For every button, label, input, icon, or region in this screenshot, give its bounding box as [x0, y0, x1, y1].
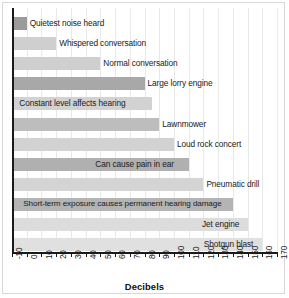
bar-row: Large lorry engine [12, 77, 277, 90]
x-tick [262, 252, 263, 257]
plot-area: Quietest noise heardWhispered conversati… [12, 8, 277, 251]
bar-row: Short-term exposure causes permanent hea… [12, 198, 277, 211]
x-tick [145, 252, 146, 257]
bar-row: Whispered conversation [12, 37, 277, 50]
bar-row: Pneumatic drill [12, 178, 277, 191]
bar-label: Quietest noise heard [30, 16, 105, 30]
x-tick [218, 252, 219, 257]
bar [12, 37, 56, 50]
x-tick-label: 110 [192, 247, 201, 259]
x-tick [248, 252, 249, 257]
x-tick-label: 170 [280, 246, 289, 259]
bar-label: Short-term exposure causes permanent hea… [14, 197, 231, 211]
x-tick [203, 252, 204, 257]
x-tick-label: 10 [45, 250, 54, 259]
bar-row: Constant level affects hearing [12, 97, 277, 110]
x-tick [41, 252, 42, 257]
x-tick-label: 50 [104, 250, 113, 259]
bar-label: Loud rock concert [177, 137, 241, 151]
bar [12, 57, 100, 70]
x-tick-label: 120 [207, 246, 216, 259]
x-tick [115, 252, 116, 257]
x-tick [27, 252, 28, 257]
bar-label: Jet engine [202, 217, 239, 231]
bar [12, 77, 145, 90]
bar-row: Quietest noise heard [12, 17, 277, 30]
x-tick [159, 252, 160, 257]
x-tick-label: 20 [59, 250, 68, 259]
x-tick-label: 40 [89, 250, 98, 259]
bar-label: Large lorry engine [148, 76, 213, 90]
x-tick-label: 150 [251, 246, 260, 259]
y-axis-line [12, 8, 14, 253]
x-tick-label: 0 [30, 255, 39, 259]
x-tick [174, 252, 175, 257]
x-tick-label: 70 [133, 250, 142, 259]
x-tick-label: 90 [162, 250, 171, 259]
x-tick-label: 100 [177, 246, 186, 259]
x-tick-label: -10 [15, 248, 24, 259]
x-tick [189, 252, 190, 257]
x-tick-label: 30 [74, 250, 83, 259]
x-axis-title: Decibels [0, 281, 289, 292]
bar-label: Can cause pain in ear [95, 157, 174, 171]
bar-label: Pneumatic drill [206, 177, 259, 191]
x-tick-label: 160 [265, 246, 274, 259]
bar [12, 17, 27, 30]
x-tick [277, 252, 278, 257]
bar-label: Whispered conversation [59, 36, 146, 50]
x-tick-label: 60 [118, 250, 127, 259]
x-tick-label: 130 [221, 246, 230, 259]
x-tick-label: 80 [148, 250, 157, 259]
bar-row: Can cause pain in ear [12, 158, 277, 171]
x-tick [130, 252, 131, 257]
x-tick [12, 252, 13, 257]
bar-label: Constant level affects hearing [19, 96, 125, 110]
bar-label: Lawnmower [162, 117, 206, 131]
bar [12, 138, 174, 151]
bar-row: Loud rock concert [12, 138, 277, 151]
bar-row: Jet engine [12, 218, 277, 231]
noise-levels-bar-chart: Quietest noise heardWhispered conversati… [0, 0, 289, 298]
x-tick [56, 252, 57, 257]
bar [12, 118, 159, 131]
bar-row: Normal conversation [12, 57, 277, 70]
bar-row: Lawnmower [12, 118, 277, 131]
gridline [277, 8, 278, 251]
bar-label: Normal conversation [103, 56, 177, 70]
x-tick [86, 252, 87, 257]
x-tick [100, 252, 101, 257]
x-tick [71, 252, 72, 257]
bar [12, 178, 203, 191]
x-tick [233, 252, 234, 257]
x-tick-label: 140 [236, 246, 245, 259]
